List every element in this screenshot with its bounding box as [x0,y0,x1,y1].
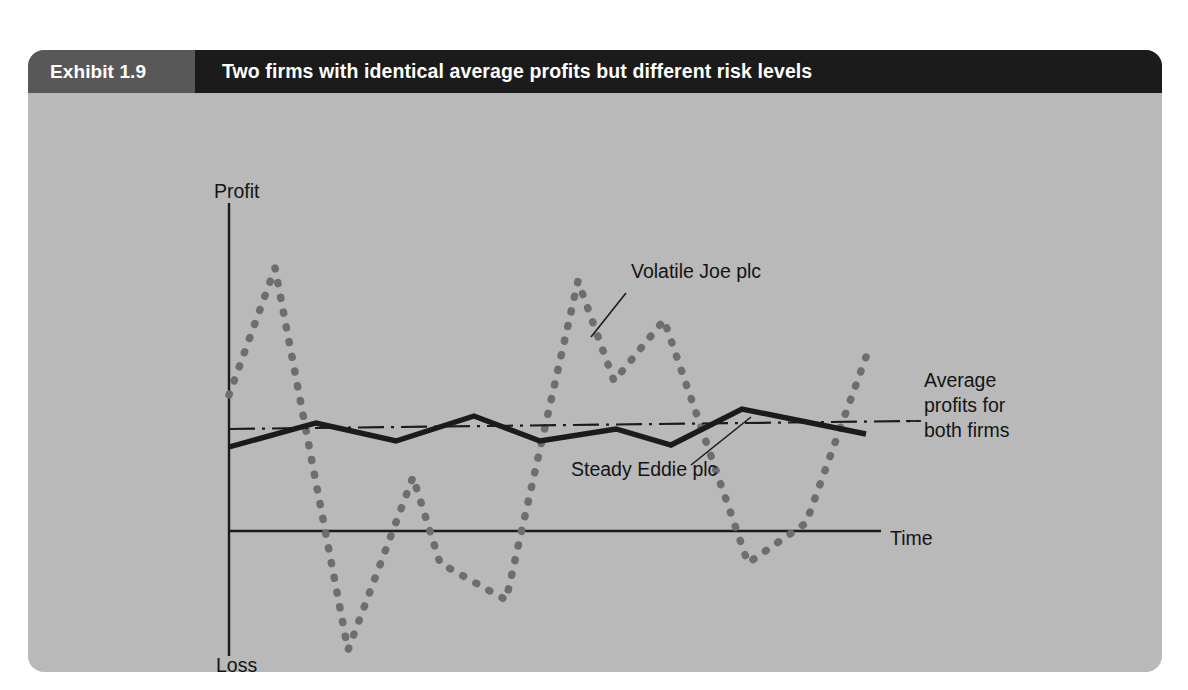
chart-plot-area: Profit Loss Time Volatile Joe plc Steady… [28,93,1162,672]
annotation-average-profits: Average profits for both firms [924,368,1010,443]
y-axis-top-label: Profit [214,179,260,204]
exhibit-figure: Exhibit 1.9 Two firms with identical ave… [28,50,1162,672]
x-axis-label: Time [890,526,933,551]
exhibit-title: Two firms with identical average profits… [222,60,812,83]
annotation-average-line-2: profits for [924,393,1010,418]
annotation-average-line-1: Average [924,368,1010,393]
exhibit-number-label: Exhibit 1.9 [50,61,146,83]
annotation-volatile-joe: Volatile Joe plc [631,259,761,284]
annotation-steady-eddie: Steady Eddie plc [571,457,717,482]
leader-line-volatile [591,293,626,337]
y-axis-bottom-label: Loss [216,653,257,672]
exhibit-number-cell: Exhibit 1.9 [28,50,195,93]
exhibit-title-cell: Two firms with identical average profits… [195,50,1162,93]
series-volatile-joe [229,268,866,650]
annotation-average-line-3: both firms [924,418,1010,443]
exhibit-header: Exhibit 1.9 Two firms with identical ave… [28,50,1162,93]
